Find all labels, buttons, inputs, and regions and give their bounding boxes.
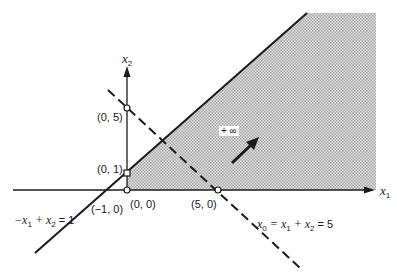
- x2-axis-label: x2: [122, 52, 132, 68]
- label-point-0-5: (0, 5): [97, 112, 123, 123]
- point-0-1: [124, 170, 130, 176]
- diagram-canvas: [0, 0, 397, 276]
- label-point-neg1-0: (−1, 0): [91, 204, 123, 215]
- point-0-5: [124, 105, 130, 111]
- label-point-0-1: (0, 1): [97, 164, 123, 175]
- lp-feasible-region-diagram: x1 x2 (0, 5) (0, 1) (0, 0) (−1, 0) (5, 0…: [0, 0, 397, 276]
- label-point-0-0: (0, 0): [130, 199, 156, 210]
- label-point-5-0: (5, 0): [191, 199, 217, 210]
- point-5-0: [215, 187, 221, 193]
- constraint-line-label: −x1 + x2 = 1: [14, 214, 74, 229]
- objective-line-label: x0 = x1 + x2 = 5: [257, 218, 333, 233]
- direction-infinity-label: + ∞: [219, 126, 239, 136]
- x1-axis-label: x1: [380, 184, 390, 200]
- feasible-region: [127, 13, 376, 190]
- point-0-0: [124, 187, 130, 193]
